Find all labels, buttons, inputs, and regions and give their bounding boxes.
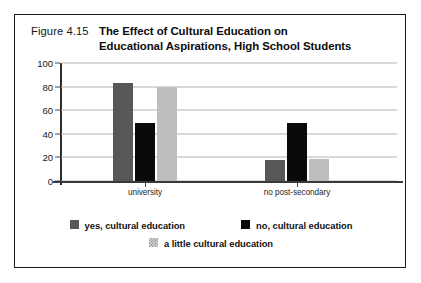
y-axis-tick-label: 0 xyxy=(27,176,53,187)
y-axis-tick-label: 60 xyxy=(27,105,53,116)
legend-entry: no, cultural education xyxy=(241,216,352,234)
legend-swatch xyxy=(241,220,250,229)
legend-label: no, cultural education xyxy=(256,220,352,231)
legend-swatch xyxy=(149,238,158,247)
figure-title: The Effect of Cultural Education on Educ… xyxy=(99,24,399,53)
chart-legend: yes, cultural educationno, cultural educ… xyxy=(15,211,407,255)
y-axis-tick-label: 80 xyxy=(27,81,53,92)
figure-number-label: Figure 4.15 xyxy=(31,25,89,37)
y-axis-tick-label: 20 xyxy=(27,152,53,163)
gridline xyxy=(61,110,397,111)
legend-label: a little cultural education xyxy=(164,238,273,249)
bar xyxy=(265,160,285,181)
legend-entry: a little cultural education xyxy=(149,234,273,252)
x-axis-tick-mark xyxy=(145,182,146,187)
bar xyxy=(157,87,177,181)
x-axis-tick-mark xyxy=(297,182,298,187)
figure-frame: Figure 4.15 The Effect of Cultural Educa… xyxy=(14,14,406,268)
bar xyxy=(135,123,155,181)
x-axis-category-label: no post-secondary xyxy=(264,188,331,197)
legend-label: yes, cultural education xyxy=(85,220,185,231)
bar xyxy=(113,83,133,181)
legend-entry: yes, cultural education xyxy=(70,216,185,234)
figure-title-line-2: Educational Aspirations, High School Stu… xyxy=(99,39,399,54)
figure-header: Figure 4.15 The Effect of Cultural Educa… xyxy=(15,15,405,63)
gridline xyxy=(61,157,397,158)
legend-row-1: yes, cultural educationno, cultural educ… xyxy=(15,215,407,234)
bar xyxy=(309,159,329,181)
y-axis-tick-labels: 020406080100 xyxy=(27,63,53,181)
legend-swatch xyxy=(70,220,79,229)
chart-plot-region: 020406080100 universityno post-secondary xyxy=(15,63,407,208)
legend-row-2: a little cultural education xyxy=(15,233,407,252)
y-axis-tick-label: 40 xyxy=(27,128,53,139)
x-axis-category-label: university xyxy=(128,188,162,197)
bar xyxy=(287,123,307,181)
bars-and-gridlines: universityno post-secondary xyxy=(61,63,397,181)
x-axis-line xyxy=(53,181,403,183)
gridline xyxy=(61,133,397,134)
figure-title-line-1: The Effect of Cultural Education on xyxy=(99,24,399,39)
gridline xyxy=(61,86,397,87)
y-axis-tick-label: 100 xyxy=(27,58,53,69)
gridline xyxy=(61,63,397,64)
